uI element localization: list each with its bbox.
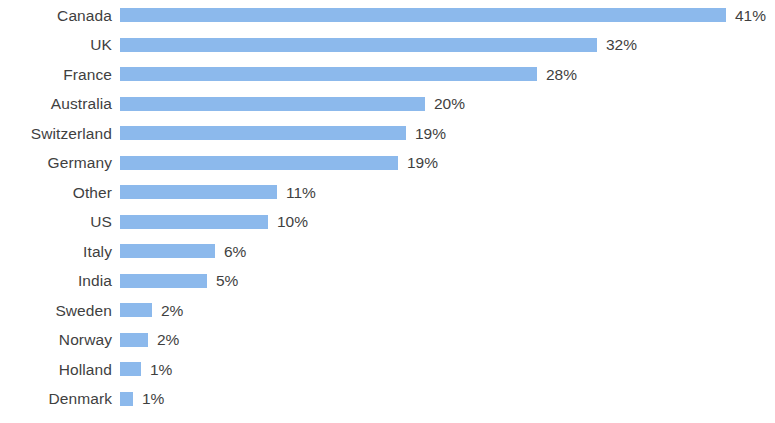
bar [120,38,597,52]
category-label: Italy [0,244,112,260]
bar-track: 19% [120,119,775,149]
bar-track: 32% [120,30,775,60]
bar-row: Norway2% [0,325,775,355]
bar [120,392,133,406]
bar-track: 20% [120,89,775,119]
bar-row: France28% [0,60,775,90]
bar [120,67,537,81]
data-value-label: 6% [224,244,246,260]
bar-track: 2% [120,325,775,355]
data-value-label: 41% [735,8,766,24]
bar-track: 28% [120,60,775,90]
bar-chart: Canada41%UK32%France28%Australia20%Switz… [0,0,775,423]
bar-row: India5% [0,266,775,296]
data-value-label: 32% [606,37,637,53]
data-value-label: 11% [286,185,316,201]
category-label: Switzerland [0,126,112,142]
bar-track: 5% [120,266,775,296]
bar-row: Italy6% [0,237,775,267]
bar [120,303,152,317]
bar-track: 1% [120,384,775,414]
bar-track: 41% [120,1,775,31]
data-value-label: 1% [150,362,172,378]
category-label: Holland [0,362,112,378]
bar-row: Germany19% [0,148,775,178]
bar-row: Switzerland19% [0,119,775,149]
category-label: US [0,214,112,230]
chart-plot-area: Canada41%UK32%France28%Australia20%Switz… [0,0,775,423]
bar [120,126,406,140]
bar [120,274,207,288]
bar-track: 10% [120,207,775,237]
bar-row: Denmark1% [0,384,775,414]
bar-row: UK32% [0,30,775,60]
category-label: Denmark [0,391,112,407]
bar-row: Sweden2% [0,296,775,326]
bar-track: 2% [120,296,775,326]
data-value-label: 10% [277,214,308,230]
bar [120,8,726,22]
data-value-label: 19% [415,126,446,142]
bar-row: Canada41% [0,1,775,31]
bar-track: 11% [120,178,775,208]
category-label: Sweden [0,303,112,319]
data-value-label: 20% [434,96,465,112]
category-label: India [0,273,112,289]
bar-row: Australia20% [0,89,775,119]
bar-track: 6% [120,237,775,267]
bar [120,244,215,258]
category-label: Australia [0,96,112,112]
bar-row: Holland1% [0,355,775,385]
bar [120,362,141,376]
bar-track: 1% [120,355,775,385]
bar [120,215,268,229]
category-label: Canada [0,8,112,24]
bar [120,333,148,347]
category-label: Norway [0,332,112,348]
data-value-label: 2% [161,303,183,319]
data-value-label: 2% [157,332,179,348]
bar-row: US10% [0,207,775,237]
bar-track: 19% [120,148,775,178]
category-label: UK [0,37,112,53]
category-label: Germany [0,155,112,171]
category-label: France [0,67,112,83]
bar [120,156,398,170]
bar-row: Other11% [0,178,775,208]
data-value-label: 5% [216,273,238,289]
data-value-label: 28% [546,67,577,83]
category-label: Other [0,185,112,201]
bar [120,185,277,199]
bar [120,97,425,111]
data-value-label: 1% [142,391,164,407]
data-value-label: 19% [407,155,438,171]
